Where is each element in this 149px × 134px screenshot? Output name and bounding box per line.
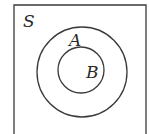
set-b-label: B <box>85 62 99 82</box>
universe-label: S <box>23 11 35 31</box>
set-a-label: A <box>67 30 81 50</box>
set-a-circle <box>37 27 127 117</box>
venn-diagram: S A B <box>0 0 149 134</box>
